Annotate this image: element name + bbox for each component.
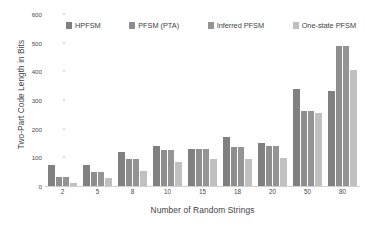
bar[interactable] [273,146,280,186]
bar[interactable] [63,177,70,186]
x-axis-tick-label: 15 [199,188,206,195]
bar[interactable] [343,46,350,186]
bar[interactable] [175,162,182,186]
bar[interactable] [231,147,238,186]
bar[interactable] [140,171,147,186]
bar[interactable] [245,159,252,186]
x-axis-ticks: 258101518205080 [45,188,360,200]
bar[interactable] [118,152,125,186]
bar[interactable] [48,165,55,187]
bar[interactable] [126,159,133,186]
bar[interactable] [133,159,140,186]
bar-group [325,14,360,186]
y-axis-tick-label: 600 [20,11,42,18]
bar-group [220,14,255,186]
x-axis-tick-label: 10 [164,188,171,195]
y-axis-tick-label: 200 [20,125,42,132]
bar-group [255,14,290,186]
bar[interactable] [266,146,273,186]
y-axis-tick-label: 400 [20,68,42,75]
x-axis-title: Number of Random Strings [45,205,360,215]
bar[interactable] [56,177,63,186]
bar[interactable] [336,46,343,186]
bar[interactable] [105,178,112,186]
bar[interactable] [210,159,217,186]
bar-chart: HPFSMPFSM (PTA)Inferred PFSMOne-state PF… [0,0,365,235]
y-axis-tick-label: 300 [20,97,42,104]
bar-group [290,14,325,186]
bar[interactable] [280,158,287,186]
bar[interactable] [223,137,230,186]
x-axis-tick-label: 80 [339,188,346,195]
bar[interactable] [83,165,90,187]
bar[interactable] [161,150,168,186]
y-axis-tick-label: 0 [20,183,42,190]
bar-group [150,14,185,186]
bar[interactable] [153,146,160,186]
bar[interactable] [196,149,203,186]
x-axis-tick-label: 2 [61,188,65,195]
bar-group [80,14,115,186]
bar[interactable] [258,143,265,186]
bar[interactable] [328,91,335,186]
plot-area [45,14,360,187]
bar[interactable] [98,172,105,186]
bar[interactable] [168,150,175,186]
y-axis-tick-label: 100 [20,154,42,161]
bar-group [115,14,150,186]
x-axis-tick-label: 5 [96,188,100,195]
x-axis-tick-label: 20 [269,188,276,195]
bar[interactable] [238,147,245,186]
bar[interactable] [350,70,357,186]
y-axis-ticks: 0100200300400500600 [20,10,42,190]
x-axis-tick-label: 18 [234,188,241,195]
y-axis-tick-label: 500 [20,39,42,46]
x-axis-tick-label: 8 [131,188,135,195]
bar[interactable] [70,183,77,186]
bar[interactable] [203,149,210,186]
bar[interactable] [188,149,195,186]
x-axis-tick-label: 50 [304,188,311,195]
bar[interactable] [301,111,308,186]
bar[interactable] [315,113,322,186]
bar[interactable] [308,111,315,186]
bar-group [45,14,80,186]
bar[interactable] [91,172,98,186]
bar[interactable] [293,89,300,186]
bar-group [185,14,220,186]
